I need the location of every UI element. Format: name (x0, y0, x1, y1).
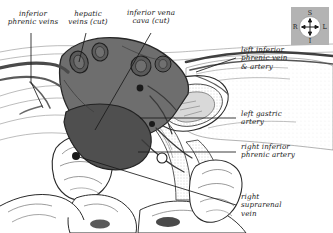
compass-label-right: R (293, 23, 298, 31)
label-inferior-vena-cava-cut: inferior vena cava (cut) (120, 9, 182, 26)
label-inferior-phrenic-veins: inferior phrenic veins (4, 10, 62, 27)
label-hepatic-veins-cut: hepatic veins (cut) (62, 10, 114, 27)
label-right-inferior-phrenic-artery: right inferior phrenic artery (241, 143, 333, 160)
label-left-gastric-artery: left gastric artery (241, 110, 333, 127)
compass-label-left: L (322, 23, 327, 31)
anatomical-figure: inferior phrenic veins hepatic veins (cu… (0, 0, 333, 233)
orientation-compass: S I R L (291, 7, 329, 45)
label-right-suprarenal-vein: right suprarenal vein (241, 193, 333, 218)
label-left-inferior-phrenic-vein-and-artery: left inferior phrenic vein & artery (241, 46, 333, 71)
compass-label-superior: S (308, 9, 312, 17)
